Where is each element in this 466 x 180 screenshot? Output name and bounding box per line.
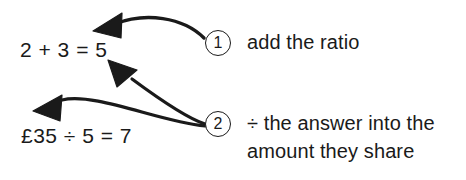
arrow-step-1 (93, 13, 204, 38)
step-marker-2: 2 (205, 111, 231, 137)
step-2-caption-line-1: ÷ the answer into the (247, 112, 435, 135)
arrow-step-1-shaft (115, 18, 204, 38)
arrow-step-2-to-divide-head (33, 95, 62, 121)
step-marker-1: 1 (205, 30, 231, 56)
equation-add-ratio: 2 + 3 = 5 (20, 38, 107, 62)
arrow-step-2-to-sum-head (108, 60, 137, 87)
equation-divide-amount: £35 ÷ 5 = 7 (21, 124, 132, 148)
arrow-step-2-to-sum-shaft (132, 79, 205, 124)
step-2-caption-line-2: amount they share (247, 140, 414, 163)
arrow-step-1-head (93, 13, 122, 38)
ratio-diagram: 2 + 3 = 5 £35 ÷ 5 = 7 1 2 add the ratio … (0, 0, 466, 180)
step-1-caption: add the ratio (247, 31, 360, 54)
step-marker-2-label: 2 (214, 115, 223, 133)
step-marker-1-label: 1 (214, 34, 223, 52)
